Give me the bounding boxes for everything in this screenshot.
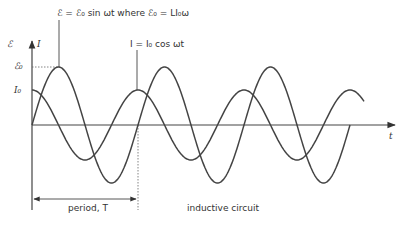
diagram-canvas xyxy=(0,0,404,232)
emf-equation-label: ℰ = ℰ₀ sin ωt where ℰ₀ = LI₀ω xyxy=(57,9,189,18)
caption: inductive circuit xyxy=(187,204,259,213)
y-axis-current-label: I xyxy=(37,40,41,49)
emf-peak-tick-label: ℰ₀ xyxy=(14,62,23,71)
period-label: period, T xyxy=(68,204,108,213)
x-axis-label: t xyxy=(389,132,393,141)
current-peak-tick-label: I₀ xyxy=(14,86,21,95)
y-axis-emf-label: ℰ xyxy=(7,40,12,49)
current-equation-label: I = I₀ cos ωt xyxy=(130,40,184,49)
